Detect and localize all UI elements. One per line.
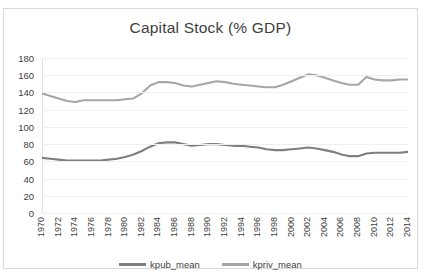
legend-swatch-kpub_mean bbox=[119, 263, 146, 266]
gridline-60 bbox=[42, 161, 408, 162]
chart-title: Capital Stock (% GDP) bbox=[4, 19, 417, 37]
x-tick-label-1974: 1974 bbox=[70, 217, 79, 237]
y-tick-label-80: 80 bbox=[23, 139, 34, 150]
gridline-160 bbox=[42, 75, 408, 76]
x-tick-label-1976: 1976 bbox=[87, 217, 96, 237]
y-tick-label-160: 160 bbox=[18, 70, 34, 81]
x-tick-label-2010: 2010 bbox=[370, 217, 379, 237]
series-line-kpriv_mean bbox=[42, 74, 408, 102]
x-tick-label-2012: 2012 bbox=[386, 217, 395, 237]
x-tick-label-1990: 1990 bbox=[203, 217, 212, 237]
x-tick-label-1994: 1994 bbox=[237, 217, 246, 237]
y-tick-label-120: 120 bbox=[18, 104, 34, 115]
x-tick-label-2004: 2004 bbox=[320, 217, 329, 237]
gridline-20 bbox=[42, 196, 408, 197]
legend-item-kpub_mean[interactable]: kpub_mean bbox=[119, 259, 200, 270]
legend-label-kpriv_mean: kpriv_mean bbox=[253, 259, 302, 270]
legend-swatch-kpriv_mean bbox=[222, 263, 249, 266]
gridline-180 bbox=[42, 58, 408, 59]
chart-legend: kpub_meankpriv_mean bbox=[4, 259, 417, 270]
x-tick-label-1982: 1982 bbox=[137, 217, 146, 237]
y-tick-label-40: 40 bbox=[23, 173, 34, 184]
gridline-40 bbox=[42, 179, 408, 180]
x-tick-label-2000: 2000 bbox=[287, 217, 296, 237]
x-tick-label-1996: 1996 bbox=[253, 217, 262, 237]
x-tick-label-2006: 2006 bbox=[336, 217, 345, 237]
gridline-140 bbox=[42, 92, 408, 93]
gridline-0 bbox=[42, 213, 408, 214]
y-axis-tick-labels: 180160140120100806040200 bbox=[4, 58, 38, 213]
y-tick-label-140: 140 bbox=[18, 87, 34, 98]
x-tick-label-1980: 1980 bbox=[120, 217, 129, 237]
gridline-80 bbox=[42, 144, 408, 145]
y-tick-label-100: 100 bbox=[18, 121, 34, 132]
series-layer bbox=[42, 58, 408, 213]
x-tick-label-1970: 1970 bbox=[37, 217, 46, 237]
gridline-120 bbox=[42, 110, 408, 111]
legend-label-kpub_mean: kpub_mean bbox=[150, 259, 200, 270]
x-tick-label-1992: 1992 bbox=[220, 217, 229, 237]
x-tick-label-1998: 1998 bbox=[270, 217, 279, 237]
x-axis-tick-labels: 1970197219741976197819801982198419861988… bbox=[42, 217, 408, 257]
legend-item-kpriv_mean[interactable]: kpriv_mean bbox=[222, 259, 302, 270]
x-tick-label-1978: 1978 bbox=[104, 217, 113, 237]
y-tick-label-20: 20 bbox=[23, 190, 34, 201]
x-tick-label-2002: 2002 bbox=[303, 217, 312, 237]
chart-container: Capital Stock (% GDP) 180160140120100806… bbox=[3, 8, 418, 269]
x-tick-label-1984: 1984 bbox=[153, 217, 162, 237]
x-tick-label-1986: 1986 bbox=[170, 217, 179, 237]
gridline-100 bbox=[42, 127, 408, 128]
plot-area bbox=[42, 58, 408, 213]
x-tick-label-2008: 2008 bbox=[353, 217, 362, 237]
x-tick-label-1988: 1988 bbox=[187, 217, 196, 237]
y-tick-label-0: 0 bbox=[29, 208, 34, 219]
y-tick-label-60: 60 bbox=[23, 156, 34, 167]
x-tick-label-2014: 2014 bbox=[403, 217, 412, 237]
y-tick-label-180: 180 bbox=[18, 53, 34, 64]
x-tick-label-1972: 1972 bbox=[54, 217, 63, 237]
